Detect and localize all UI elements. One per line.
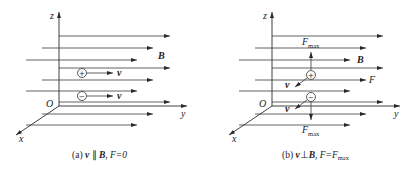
force-label-f: F xyxy=(368,74,376,85)
diagram-canvas: z y x O B + v − v (a) v ∥ B, F=0 xyxy=(0,0,408,173)
panel-a: z y x O B + v − v (a) v ∥ B, F=0 xyxy=(16,10,187,161)
x-axis-label: x xyxy=(231,133,237,144)
svg-text:−: − xyxy=(79,93,85,101)
field-label-b: B xyxy=(157,50,165,61)
svg-text:+: + xyxy=(308,72,314,80)
velocity-arrow xyxy=(295,78,307,87)
velocity-label: v xyxy=(117,67,122,78)
panel-b: z y x O B F Fmax + v − v Fmax (b) v⊥B, F… xyxy=(229,10,400,161)
magnetic-field-lines xyxy=(26,36,170,125)
origin-label: O xyxy=(259,98,266,109)
origin-label: O xyxy=(46,98,53,109)
field-label-b: B xyxy=(356,54,364,65)
force-max-bottom-label: Fmax xyxy=(301,124,320,137)
coordinate-axes xyxy=(16,12,187,135)
caption-a: (a) v ∥ B, F=0 xyxy=(72,150,127,161)
positive-charge: + v xyxy=(285,52,316,90)
x-axis xyxy=(16,106,59,135)
z-axis-label: z xyxy=(49,10,54,21)
velocity-label: v xyxy=(117,90,122,101)
svg-text:−: − xyxy=(308,94,314,102)
x-axis xyxy=(229,106,272,135)
positive-charge: + v xyxy=(78,67,123,78)
force-max-top-label: Fmax xyxy=(301,36,320,49)
y-axis-label: y xyxy=(180,108,186,119)
z-axis-label: z xyxy=(262,10,267,21)
svg-text:+: + xyxy=(79,70,85,78)
velocity-arrow xyxy=(295,100,307,109)
velocity-label: v xyxy=(285,79,290,90)
x-axis-label: x xyxy=(18,133,24,144)
negative-charge: − v xyxy=(78,90,123,101)
velocity-label: v xyxy=(285,103,290,114)
caption-b: (b) v⊥B, F=Fmax xyxy=(282,150,350,161)
y-axis-label: y xyxy=(393,108,399,119)
